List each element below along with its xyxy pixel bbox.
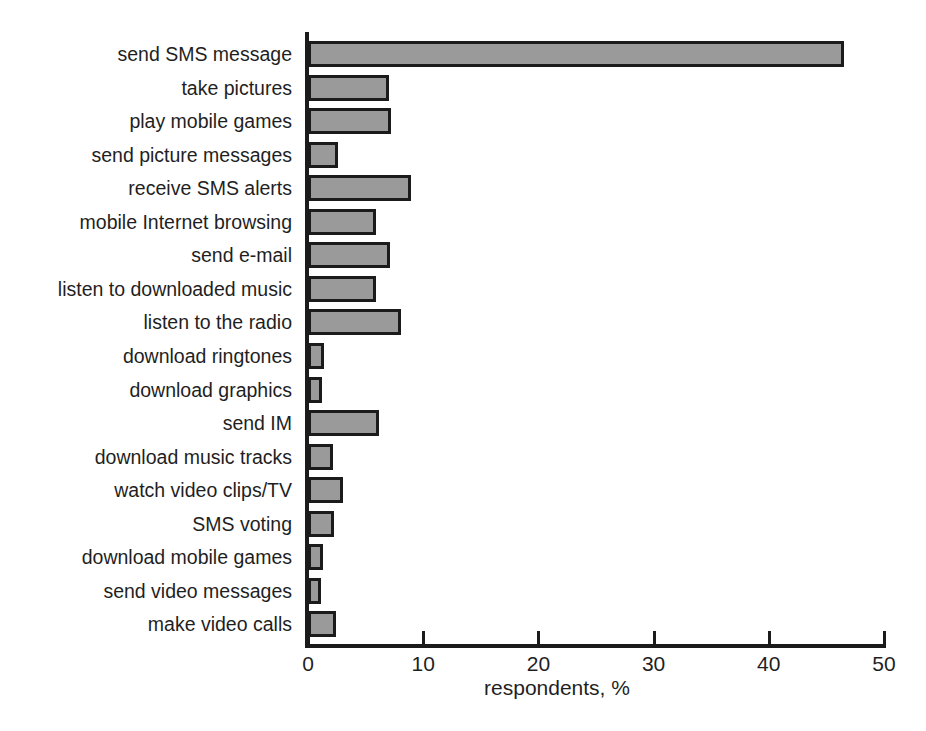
- bar: [308, 377, 322, 403]
- bar-row: [308, 238, 884, 272]
- x-axis-tick: [653, 631, 656, 644]
- category-label: send video messages: [0, 578, 292, 604]
- bar: [308, 444, 333, 470]
- x-axis-title-text: respondents, %: [484, 676, 630, 700]
- category-label: make video calls: [0, 611, 292, 637]
- category-label: send IM: [0, 410, 292, 436]
- bar-row: [308, 574, 884, 608]
- bar-chart: 01020304050 respondents, % send SMS mess…: [0, 0, 926, 731]
- bar: [308, 75, 389, 101]
- category-label: watch video clips/TV: [0, 477, 292, 503]
- bar-row: [308, 406, 884, 440]
- category-label: receive SMS alerts: [0, 175, 292, 201]
- bar: [308, 175, 411, 201]
- bar: [308, 309, 401, 335]
- x-axis-tick: [422, 631, 425, 644]
- category-label: download graphics: [0, 377, 292, 403]
- bar-row: [308, 305, 884, 339]
- bar: [308, 511, 334, 537]
- bar: [308, 544, 323, 570]
- plot-area: [308, 32, 884, 645]
- bar: [308, 410, 379, 436]
- x-axis-tick: [537, 631, 540, 644]
- bar-row: [308, 607, 884, 641]
- x-axis-tick-label: 20: [527, 652, 550, 676]
- bar-row: [308, 473, 884, 507]
- bar: [308, 142, 338, 168]
- category-label: download music tracks: [0, 444, 292, 470]
- bar: [308, 276, 376, 302]
- category-label: listen to the radio: [0, 309, 292, 335]
- bar: [308, 477, 343, 503]
- bar: [308, 242, 390, 268]
- category-label: take pictures: [0, 75, 292, 101]
- bar: [308, 41, 844, 67]
- bar-row: [308, 373, 884, 407]
- category-label: play mobile games: [0, 108, 292, 134]
- bar-row: [308, 138, 884, 172]
- category-label: SMS voting: [0, 511, 292, 537]
- x-axis-tick: [883, 631, 886, 644]
- x-axis-tick: [768, 631, 771, 644]
- x-axis-tick-label: 0: [302, 652, 314, 676]
- x-axis-tick-label: 50: [872, 652, 895, 676]
- bar: [308, 209, 376, 235]
- bar-row: [308, 71, 884, 105]
- x-axis-tick-label: 10: [412, 652, 435, 676]
- x-axis-tick-label: 30: [642, 652, 665, 676]
- category-label: send e-mail: [0, 242, 292, 268]
- x-axis-title: respondents, %: [0, 676, 926, 700]
- category-label: send picture messages: [0, 142, 292, 168]
- bar-row: [308, 507, 884, 541]
- category-label: download mobile games: [0, 544, 292, 570]
- clipped-title-fragment: [316, 0, 616, 6]
- bar-row: [308, 272, 884, 306]
- bar: [308, 611, 336, 637]
- x-axis-tick: [307, 631, 310, 644]
- bar-row: [308, 440, 884, 474]
- bar: [308, 108, 391, 134]
- bar-row: [308, 339, 884, 373]
- bar-row: [308, 37, 884, 71]
- bar-row: [308, 205, 884, 239]
- category-label: mobile Internet browsing: [0, 209, 292, 235]
- x-axis-tick-label: 40: [757, 652, 780, 676]
- bar: [308, 578, 321, 604]
- category-label: download ringtones: [0, 343, 292, 369]
- category-label: listen to downloaded music: [0, 276, 292, 302]
- category-label: send SMS message: [0, 41, 292, 67]
- bar-row: [308, 540, 884, 574]
- bar-row: [308, 171, 884, 205]
- bar: [308, 343, 324, 369]
- bar-row: [308, 104, 884, 138]
